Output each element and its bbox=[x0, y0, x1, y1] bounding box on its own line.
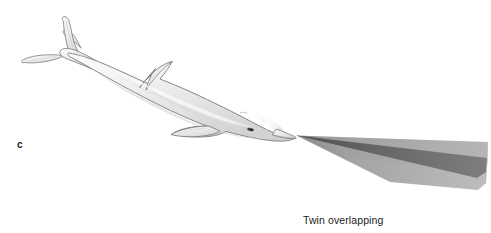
blowhole bbox=[240, 112, 248, 113]
dolphin-illustration bbox=[22, 17, 297, 142]
body bbox=[68, 53, 295, 141]
beam-caption: Twin overlapping beams of sound bbox=[303, 188, 383, 233]
figure-illustration bbox=[0, 0, 491, 233]
beam-caption-line-1: Twin overlapping bbox=[303, 214, 383, 227]
dolphin-echolocation-figure: c Twin overlapping beams of sound bbox=[0, 0, 491, 233]
panel-label-c: c bbox=[17, 140, 23, 150]
tail-fluke-upper-lobe bbox=[62, 17, 78, 51]
sound-beams-group bbox=[297, 136, 489, 191]
tail-fluke-lower-lobe bbox=[22, 55, 64, 63]
